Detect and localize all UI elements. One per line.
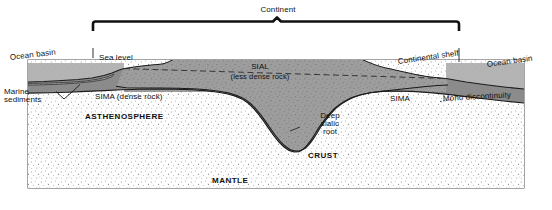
label-sima-right: SIMA: [390, 95, 410, 103]
label-marine-sediments-line2: sediments: [4, 96, 41, 104]
label-sial: SIAL: [240, 63, 280, 71]
label-sima-left: SIMA (dense rock): [95, 93, 163, 101]
cross-section-figure: [0, 0, 552, 210]
label-continent: Continent: [248, 6, 308, 14]
label-sial-sub: (less dense rock): [223, 73, 297, 81]
label-deep-root-line3: root: [313, 128, 347, 136]
label-sea-level: Sea level: [99, 54, 133, 62]
label-asthenosphere: ASTHENOSPHERE: [85, 113, 164, 121]
continent-bracket: [93, 18, 459, 32]
label-mantle: MANTLE: [212, 177, 248, 185]
diagram-canvas: Continent Ocean basin Sea level Continen…: [0, 0, 552, 210]
label-crust: CRUST: [308, 152, 338, 160]
